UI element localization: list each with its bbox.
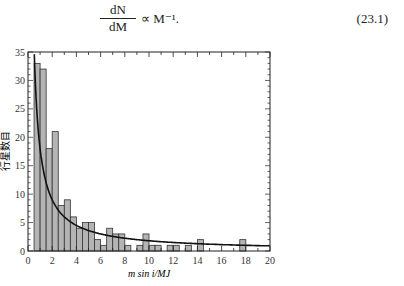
y-tick-label: 5: [20, 217, 25, 228]
x-tick-label: 12: [168, 255, 178, 266]
histogram-bar: [125, 245, 131, 251]
histogram-bar: [64, 200, 70, 251]
histogram-bar: [155, 245, 161, 251]
histogram-bar: [89, 223, 95, 251]
histogram-bar: [143, 234, 149, 251]
histogram-bar: [101, 245, 107, 251]
y-tick-label: 0: [20, 246, 25, 257]
histogram-bar: [107, 228, 113, 251]
x-tick-label: 2: [50, 255, 55, 266]
histogram-bar: [34, 63, 40, 251]
y-tick-label: 20: [15, 132, 25, 143]
x-tick-label: 0: [26, 255, 31, 266]
y-tick-label: 10: [15, 189, 25, 200]
y-tick-label: 35: [15, 47, 25, 58]
histogram-bar: [52, 132, 58, 251]
histogram-bar: [137, 245, 143, 251]
histogram-bar: [46, 149, 52, 251]
y-axis-label: 行星数目: [0, 131, 11, 171]
histogram-bar: [149, 245, 155, 251]
y-tick-label: 30: [15, 75, 25, 86]
histogram-bar: [119, 234, 125, 251]
histogram-bar: [167, 245, 173, 251]
histogram-bar: [95, 240, 101, 251]
x-tick-label: 14: [192, 255, 202, 266]
y-tick-label: 15: [15, 160, 25, 171]
x-tick-label: 18: [241, 255, 251, 266]
histogram-bars: [34, 63, 246, 251]
x-tick-label: 16: [217, 255, 227, 266]
histogram-bar: [197, 240, 203, 251]
x-tick-label: 8: [122, 255, 127, 266]
y-tick-labels: 05101520253035: [15, 47, 25, 257]
histogram-bar: [82, 223, 88, 251]
histogram-bar: [173, 245, 179, 251]
x-tick-label: 10: [144, 255, 154, 266]
histogram-bar: [76, 228, 82, 251]
x-tick-label: 4: [74, 255, 79, 266]
histogram-chart: 02468101214161820 05101520253035 m sin i…: [0, 0, 404, 286]
histogram-bar: [185, 245, 191, 251]
x-tick-labels: 02468101214161820: [26, 255, 276, 266]
x-tick-label: 6: [98, 255, 103, 266]
x-axis-label: m sin i/MJ: [128, 268, 171, 279]
x-tick-label: 20: [265, 255, 275, 266]
y-tick-label: 25: [15, 103, 25, 114]
